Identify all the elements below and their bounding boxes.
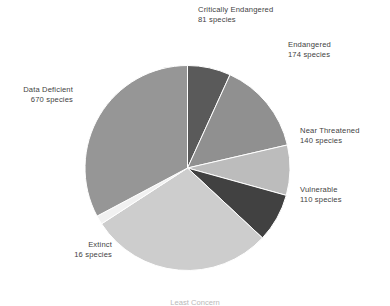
label-data-deficient: Data Deficient 670 species — [23, 85, 73, 105]
label-near-threatened-category: Near Threatened — [300, 126, 360, 136]
label-extinct-category: Extinct — [74, 240, 112, 250]
label-endangered-value: 174 species — [288, 50, 331, 60]
label-vulnerable-value: 110 species — [300, 195, 342, 205]
label-vulnerable-category: Vulnerable — [300, 185, 342, 195]
label-vulnerable: Vulnerable 110 species — [300, 185, 342, 205]
pie-slice-group — [85, 66, 290, 271]
label-critically-endangered-category: Critically Endangered — [198, 5, 273, 15]
pie-chart-svg — [0, 0, 390, 306]
pie-chart: Critically Endangered 81 species Endange… — [0, 0, 390, 306]
label-data-deficient-value: 670 species — [23, 95, 73, 105]
label-endangered: Endangered 174 species — [288, 40, 331, 60]
label-extinct: Extinct 16 species — [74, 240, 112, 260]
label-least-concern-clipped: Least Concern — [0, 298, 390, 306]
label-data-deficient-category: Data Deficient — [23, 85, 73, 95]
label-extinct-value: 16 species — [74, 250, 112, 260]
label-critically-endangered-value: 81 species — [198, 15, 273, 25]
label-endangered-category: Endangered — [288, 40, 331, 50]
label-near-threatened: Near Threatened 140 species — [300, 126, 360, 146]
label-critically-endangered: Critically Endangered 81 species — [198, 5, 273, 25]
label-near-threatened-value: 140 species — [300, 136, 360, 146]
